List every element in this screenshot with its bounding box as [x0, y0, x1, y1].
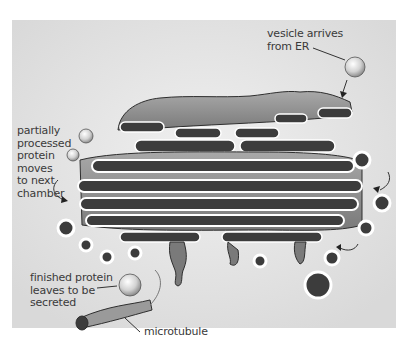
label-line: finished protein [30, 272, 113, 285]
vesicle [101, 251, 113, 263]
label-line: partially [17, 125, 71, 138]
label-line: chamber [17, 188, 71, 201]
vesicle [374, 195, 390, 211]
vesicle [58, 220, 74, 236]
vesicle [129, 247, 141, 259]
partial-protein-vesicle [79, 129, 93, 143]
label-vesicle-arrives-from-er: vesicle arrivesfrom ER [267, 28, 343, 53]
label-line: secreted [30, 297, 113, 310]
vesicle [80, 239, 92, 251]
er-vesicle [345, 57, 365, 77]
label-finished-protein: finished proteinleaves to besecreted [30, 272, 113, 310]
vesicle [354, 152, 370, 168]
finished-protein-vesicle [119, 274, 141, 296]
label-line: protein [17, 150, 71, 163]
vesicle [254, 255, 266, 267]
golgi-main-stack [78, 152, 362, 230]
vesicle [325, 251, 339, 265]
vesicle [305, 272, 331, 298]
label-line: from ER [267, 41, 343, 54]
label-microtubule: microtubule [144, 326, 208, 339]
vesicle [359, 221, 373, 235]
label-line: vesicle arrives [267, 28, 343, 41]
label-line: to next [17, 175, 71, 188]
label-partially-processed-protein: partiallyprocessedproteinmovesto nextcha… [17, 125, 71, 200]
